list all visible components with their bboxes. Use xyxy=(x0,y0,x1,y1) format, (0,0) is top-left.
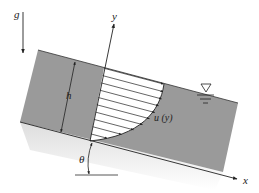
depth-label: h xyxy=(66,90,72,101)
angle-label: θ xyxy=(79,154,84,165)
gravity-label: g xyxy=(14,9,20,20)
x-axis-label: x xyxy=(243,175,248,186)
film-flow-diagram xyxy=(0,0,259,193)
y-axis-label: y xyxy=(112,11,117,22)
velocity-profile-label: u (y) xyxy=(154,113,173,123)
